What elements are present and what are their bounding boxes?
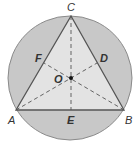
label-midpoint-e: E: [67, 114, 75, 126]
label-midpoint-d: D: [100, 52, 108, 64]
label-vertex-c: C: [67, 1, 75, 13]
center-point-o: [69, 76, 73, 80]
label-vertex-b: B: [125, 114, 132, 126]
label-center-o: O: [54, 73, 63, 85]
label-midpoint-f: F: [35, 52, 42, 64]
circumscribed-triangle-diagram: C A B F D E O: [0, 0, 139, 149]
label-vertex-a: A: [7, 114, 15, 126]
